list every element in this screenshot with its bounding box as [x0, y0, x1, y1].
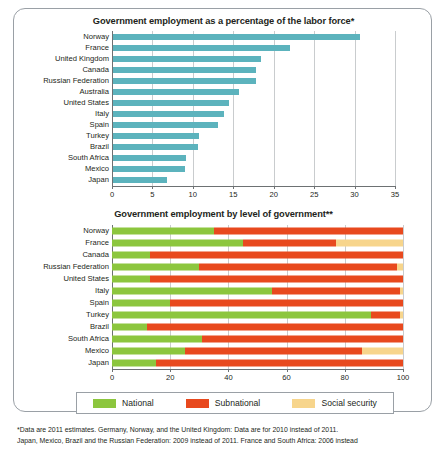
chart-bottom-title: Government employment by level of govern… [14, 209, 433, 219]
stacked-segment-subnational [156, 360, 403, 367]
stacked-segment-social-security [400, 288, 403, 295]
stacked-segment-subnational [214, 228, 403, 235]
chart-row: Mexico [112, 345, 403, 357]
chart-row: South Africa [112, 153, 395, 164]
category-label-russian-federation: Russian Federation [43, 263, 109, 271]
category-label-norway: Norway [83, 33, 109, 41]
stacked-segment-subnational [150, 276, 403, 283]
stacked-segment-national [112, 276, 150, 283]
chart-row: Mexico [112, 164, 395, 175]
chart-row: Italy [112, 285, 403, 297]
category-label-italy: Italy [95, 110, 109, 118]
category-label-australia: Australia [79, 88, 109, 96]
stacked-segment-national [112, 312, 371, 319]
x-tickmark-40 [228, 369, 229, 372]
x-axis-line [112, 186, 395, 187]
chart-row: Canada [112, 64, 395, 75]
gridline-x-100 [403, 225, 404, 369]
x-tickmark-5 [152, 186, 153, 189]
x-tickmark-20 [274, 186, 275, 189]
category-label-japan: Japan [88, 359, 109, 367]
chart-row: France [112, 237, 403, 249]
stacked-segment-subnational [243, 240, 336, 247]
bar [113, 45, 290, 51]
category-label-spain: Spain [90, 121, 109, 129]
bar [113, 78, 256, 84]
x-tickmark-100 [403, 369, 404, 372]
x-tick-label-30: 30 [350, 190, 358, 199]
stacked-segment-subnational [371, 312, 400, 319]
bar [113, 56, 261, 62]
footnote-line-1: *Data are 2011 estimates. Germany, Norwa… [17, 425, 429, 436]
category-label-japan: Japan [88, 177, 109, 185]
chart-row: Brazil [112, 321, 403, 333]
bar [113, 122, 218, 128]
x-tickmark-30 [355, 186, 356, 189]
legend-swatch-subnational [186, 399, 209, 408]
legend-label-national: National [122, 398, 154, 408]
x-tickmark-80 [345, 369, 346, 372]
x-axis-line [112, 369, 403, 370]
bar [113, 177, 167, 183]
stacked-segment-national [112, 336, 202, 343]
bar [113, 166, 185, 172]
stacked-segment-national [112, 300, 170, 307]
x-tick-label-60: 60 [282, 373, 290, 382]
chart-row: United States [112, 97, 395, 108]
chart-row: United Kingdom [112, 53, 395, 64]
category-label-norway: Norway [83, 227, 109, 235]
category-label-united-states: United States [63, 275, 109, 283]
chart-row: France [112, 42, 395, 53]
chart-top-plot-area: NorwayFranceUnited KingdomCanadaRussian … [112, 31, 395, 186]
stacked-segment-social-security [400, 312, 403, 319]
stacked-segment-subnational [147, 324, 403, 331]
x-tick-label-0: 0 [110, 190, 114, 199]
chart-government-employment-percentage: Government employment as a percentage of… [14, 9, 433, 199]
x-tick-label-40: 40 [224, 373, 232, 382]
chart-legend: National Subnational Social security [76, 392, 394, 414]
stacked-segment-subnational [150, 252, 403, 259]
legend-swatch-national [93, 399, 116, 408]
stacked-segment-subnational [202, 336, 403, 343]
x-tickmark-0 [112, 186, 113, 189]
legend-label-subnational: Subnational [215, 398, 260, 408]
category-label-south-africa: South Africa [68, 155, 109, 163]
chart-row: Spain [112, 120, 395, 131]
chart-row: Turkey [112, 309, 403, 321]
category-label-brazil: Brazil [90, 323, 109, 331]
bar [113, 144, 198, 150]
stacked-segment-national [112, 324, 147, 331]
x-tick-label-35: 35 [391, 190, 399, 199]
x-tick-label-80: 80 [341, 373, 349, 382]
category-label-south-africa: South Africa [68, 335, 109, 343]
figure-footnote: *Data are 2011 estimates. Germany, Norwa… [17, 425, 429, 446]
stacked-segment-social-security [336, 240, 403, 247]
chart-row: South Africa [112, 333, 403, 345]
x-tick-label-100: 100 [397, 373, 410, 382]
chart-row: Spain [112, 297, 403, 309]
legend-label-social-security: Social security [321, 398, 376, 408]
chart-row: United States [112, 273, 403, 285]
figure-card: Government employment as a percentage of… [13, 8, 432, 412]
category-label-france: France [85, 239, 109, 247]
bar [113, 67, 256, 73]
x-tickmark-35 [395, 186, 396, 189]
chart-government-employment-by-level: Government employment by level of govern… [14, 205, 433, 385]
chart-row: Australia [112, 86, 395, 97]
legend-swatch-social-security [292, 399, 315, 408]
category-label-russian-federation: Russian Federation [43, 77, 109, 85]
stacked-segment-national [112, 348, 185, 355]
bar [113, 34, 360, 40]
category-label-brazil: Brazil [90, 143, 109, 151]
bar [113, 100, 229, 106]
stacked-segment-national [112, 264, 199, 271]
x-tick-label-0: 0 [110, 373, 114, 382]
category-label-spain: Spain [90, 299, 109, 307]
chart-row: Italy [112, 109, 395, 120]
stacked-segment-social-security [397, 264, 403, 271]
bar [113, 155, 186, 161]
category-label-canada: Canada [82, 66, 109, 74]
chart-row: Japan [112, 175, 395, 186]
chart-row: Norway [112, 225, 403, 237]
x-tickmark-25 [314, 186, 315, 189]
